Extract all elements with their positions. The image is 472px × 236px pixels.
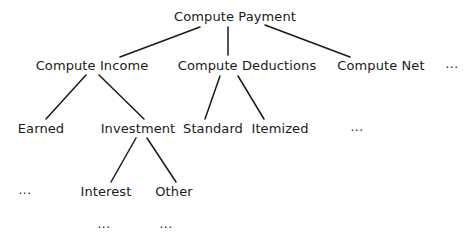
node-compute-income: Compute Income xyxy=(36,58,149,74)
edge-compute-deductions-to-standard xyxy=(205,76,220,119)
node-compute-net: Compute Net xyxy=(337,58,424,74)
edge-compute-deductions-to-itemized xyxy=(238,76,264,119)
node-earned: Earned xyxy=(18,121,64,137)
edge-compute-payment-to-compute-net xyxy=(265,25,350,57)
edge-compute-income-to-earned xyxy=(46,75,86,119)
edge-compute-payment-to-compute-income xyxy=(120,27,200,57)
node-net-children-ellipsis: ... xyxy=(351,119,364,135)
edge-investment-to-other xyxy=(147,138,176,182)
edge-compute-income-to-investment xyxy=(99,75,144,119)
payment-hierarchy-diagram: Compute Payment Compute Income Compute D… xyxy=(0,0,472,236)
node-investment: Investment xyxy=(101,121,176,137)
node-itemized: Itemized xyxy=(251,121,308,137)
node-compute-deductions: Compute Deductions xyxy=(178,58,317,74)
node-standard: Standard xyxy=(183,121,243,137)
node-other-children-ellipsis: ... xyxy=(160,216,173,232)
node-other: Other xyxy=(155,184,192,200)
edge-investment-to-interest xyxy=(111,138,136,182)
node-compute-payment: Compute Payment xyxy=(174,9,296,25)
tree-edges xyxy=(0,0,472,236)
node-interest: Interest xyxy=(81,184,132,200)
node-level1-more-ellipsis: ... xyxy=(446,56,459,72)
node-earned-children-ellipsis: ... xyxy=(19,182,32,198)
node-interest-children-ellipsis: ... xyxy=(98,216,111,232)
